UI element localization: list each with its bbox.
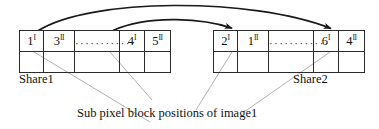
share2-row-empty bbox=[214, 52, 365, 73]
share2-cell-5-value: 4II bbox=[346, 34, 357, 48]
diagram-caption: Sub pixel block positions of image1 bbox=[77, 106, 257, 121]
share1-ellipsis-dots: ············ bbox=[75, 38, 119, 49]
share1-row-values: 1I 3II ············ 4I 5II bbox=[20, 31, 171, 52]
share1-empty-cell-4[interactable] bbox=[120, 52, 145, 73]
share1-empty-cell-2[interactable] bbox=[44, 52, 75, 73]
share2-table: 2I 1II ············ 6I 4II bbox=[213, 30, 365, 73]
share2-cell-2-value: 1II bbox=[248, 34, 259, 48]
share1-cell-2-value: 3II bbox=[54, 34, 65, 48]
arrow-share1-cell4-to-share2-cell1 bbox=[113, 20, 232, 31]
share2-cell-1[interactable]: 2I bbox=[214, 31, 238, 52]
arrow-share1-cell1-to-share2-cell4 bbox=[39, 5, 332, 30]
share1-label: Share1 bbox=[19, 72, 54, 87]
share2-cell-2[interactable]: 1II bbox=[238, 31, 269, 52]
share1-cell-5-value: 5II bbox=[152, 34, 163, 48]
share2-label: Share2 bbox=[293, 72, 328, 87]
share1-empty-cell-5[interactable] bbox=[145, 52, 171, 73]
share1-cell-ellipsis: ············ bbox=[75, 31, 120, 52]
diagram-canvas: 1I 3II ············ 4I 5II bbox=[0, 0, 379, 129]
share2-empty-cell-5[interactable] bbox=[339, 52, 365, 73]
share2-cell-ellipsis: ············ bbox=[269, 31, 314, 52]
share1-cell-5[interactable]: 5II bbox=[145, 31, 171, 52]
share1-empty-cell-1[interactable] bbox=[20, 52, 44, 73]
share1-cell-2[interactable]: 3II bbox=[44, 31, 75, 52]
share2-empty-cell-1[interactable] bbox=[214, 52, 238, 73]
share2-empty-cell-4[interactable] bbox=[314, 52, 339, 73]
share1-empty-cell-3[interactable] bbox=[75, 52, 120, 73]
share1-cell-1[interactable]: 1I bbox=[20, 31, 44, 52]
share2-ellipsis-dots: ············ bbox=[269, 38, 313, 49]
share2-cell-5[interactable]: 4II bbox=[339, 31, 365, 52]
share2-empty-cell-3[interactable] bbox=[269, 52, 314, 73]
share1-cell-1-value: 1I bbox=[27, 34, 35, 48]
share2-row-values: 2I 1II ············ 6I 4II bbox=[214, 31, 365, 52]
share1-row-empty bbox=[20, 52, 171, 73]
share2-cell-1-value: 2I bbox=[221, 34, 229, 48]
share1-table: 1I 3II ············ 4I 5II bbox=[19, 30, 171, 73]
share2-empty-cell-2[interactable] bbox=[238, 52, 269, 73]
